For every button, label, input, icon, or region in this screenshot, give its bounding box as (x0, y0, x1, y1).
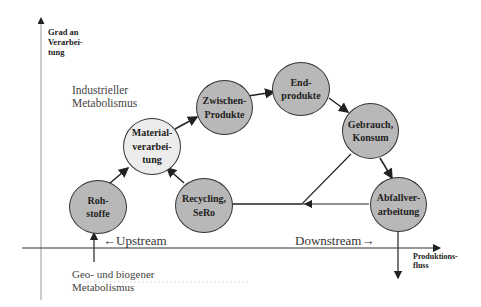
node-label: Konsum (348, 131, 393, 145)
node-label: verarbei- (132, 140, 173, 154)
x-axis-label: Produktions- fluss (413, 252, 458, 270)
node-zwischenprodukte: Zwischen-Produkte (196, 80, 253, 135)
x-axis-label-line: fluss (413, 261, 458, 270)
flow-arrow (248, 92, 274, 96)
node-label: Material- (132, 126, 173, 140)
node-label: SeRo (182, 206, 226, 220)
industrial-metabolism-diagram: Grad an Verarbei- tung Industrieller Met… (0, 0, 481, 307)
node-label: arbeitung (377, 205, 421, 219)
flow-arrow (167, 168, 184, 183)
flow-arrow (380, 158, 392, 178)
node-label: stoffe (86, 207, 109, 221)
node-label: Gebrauch, (348, 118, 393, 132)
flow-arrow (329, 98, 348, 112)
consumption-to-recycling-line (220, 154, 351, 204)
node-label: Zwischen- (203, 94, 247, 108)
industrial-label-line: Metabolismus (72, 97, 137, 110)
node-label: Abfallver- (377, 191, 421, 205)
geo-metabolism-label: Geo- und biogener Metabolismus (72, 268, 154, 293)
flow-arrow (110, 168, 128, 183)
geo-label-line: Metabolismus (72, 281, 154, 294)
x-axis-label-line: Produktions- (413, 252, 458, 261)
node-label: produkte (281, 89, 320, 103)
geo-label-line: Geo- und biogener (72, 268, 154, 281)
node-label: Roh- (86, 194, 109, 208)
node-label: Produkte (203, 108, 247, 122)
node-rohstoffe: Roh-stoffe (69, 180, 127, 234)
node-label: tung (132, 153, 173, 167)
downstream-label: Downstream→ (295, 234, 374, 249)
node-label: End- (281, 76, 320, 90)
y-axis-label: Grad an Verarbei- tung (48, 28, 83, 57)
industrial-label-line: Industrieller (72, 84, 137, 97)
industrial-metabolism-label: Industrieller Metabolismus (72, 84, 137, 110)
y-axis-label-line: tung (48, 48, 83, 58)
node-materialverarbeitung: Material-verarbei-tung (123, 118, 181, 175)
flow-arrow (175, 117, 197, 129)
node-label: Recycling, (182, 192, 226, 206)
node-endprodukte: End-produkte (272, 62, 330, 116)
upstream-label: ←Upstream (103, 234, 167, 249)
node-recycling-sero: Recycling,SeRo (175, 178, 233, 233)
node-abfallverarbeitung: Abfallver-arbeitung (370, 177, 427, 232)
node-gebrauch-konsum: Gebrauch,Konsum (342, 103, 399, 159)
